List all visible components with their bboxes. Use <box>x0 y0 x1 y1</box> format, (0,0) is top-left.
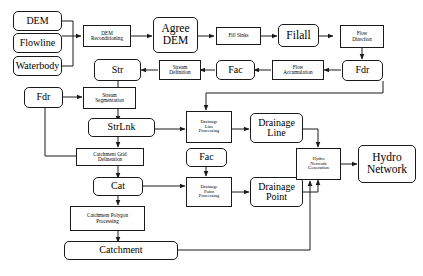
node-cat[interactable]: Cat <box>93 177 143 196</box>
node-str-label: Str <box>96 65 139 75</box>
node-catchment-label: Catchment <box>66 245 176 255</box>
node-waterbody[interactable]: Waterbody <box>13 56 62 76</box>
node-filall[interactable]: Filall <box>278 24 319 47</box>
node-flow-accumulation-label-2: Accumulation <box>274 70 322 75</box>
node-catchment-grid-delineation[interactable]: Catchment Grid Delineation <box>76 148 144 166</box>
node-catchment-polygon-processing[interactable]: Catchment Polygon Processing <box>70 206 145 231</box>
node-stream-definition-label-2: Definition <box>161 70 199 75</box>
node-drainage-line-label-2: Line <box>252 128 301 138</box>
node-dem-label: DEM <box>15 16 60 26</box>
node-drainage-point-processing[interactable]: Drainage Point Processing <box>186 177 232 207</box>
node-flow-accumulation[interactable]: Flow Accumulation <box>272 60 324 80</box>
node-waterbody-label: Waterbody <box>15 61 60 71</box>
node-flow-direction-label-2: Direction <box>342 37 382 42</box>
node-fill-sinks[interactable]: Fill Sinks <box>216 27 261 45</box>
node-flowline[interactable]: Flowline <box>13 33 62 53</box>
node-cat-label: Cat <box>95 181 141 191</box>
node-fac-top[interactable]: Fac <box>216 60 255 80</box>
node-catchment[interactable]: Catchment <box>64 241 178 260</box>
node-drainage-line[interactable]: Drainage Line <box>250 113 303 143</box>
node-drainage-line-processing-label-3: Processing <box>188 129 230 134</box>
flowchart-diagram: DEM Flowline Waterbody DEM Reconditionin… <box>0 0 423 276</box>
node-catchment-polygon-processing-label-2: Processing <box>72 219 143 224</box>
node-drainage-point[interactable]: Drainage Point <box>250 177 303 207</box>
node-fac-mid-label: Fac <box>188 152 225 162</box>
node-stream-definition[interactable]: Stream Definition <box>159 60 201 80</box>
node-agree-dem-label-2: DEM <box>155 35 196 47</box>
node-strlnk[interactable]: StrLnk <box>88 118 155 137</box>
node-fill-sinks-label: Fill Sinks <box>218 33 259 38</box>
node-catchment-grid-delineation-label-2: Delineation <box>78 157 142 162</box>
node-fac-top-label: Fac <box>218 65 253 75</box>
node-fac-mid[interactable]: Fac <box>186 148 227 167</box>
node-agree-dem[interactable]: Agree DEM <box>153 17 198 53</box>
node-flow-direction[interactable]: Flow Direction <box>340 25 384 48</box>
node-fdr-left[interactable]: Fdr <box>24 87 63 108</box>
node-dem[interactable]: DEM <box>13 11 62 31</box>
node-fdr-top[interactable]: Fdr <box>342 60 383 81</box>
node-filall-label: Filall <box>280 30 317 42</box>
node-fdr-left-label: Fdr <box>26 92 61 102</box>
node-drainage-point-label-2: Point <box>252 192 301 202</box>
node-hydro-network-label-2: Network <box>360 164 414 176</box>
node-dem-reconditioning-label-2: Reconditioning <box>85 36 129 41</box>
node-drainage-point-processing-label-3: Processing <box>188 194 230 199</box>
node-drainage-line-processing[interactable]: Drainage Line Processing <box>186 111 232 143</box>
node-dem-reconditioning[interactable]: DEM Reconditioning <box>83 25 131 47</box>
node-strlnk-label: StrLnk <box>90 122 153 132</box>
node-hydro-network-generation[interactable]: Hydro Network Generation <box>296 148 341 180</box>
node-str[interactable]: Str <box>94 59 141 81</box>
node-fdr-top-label: Fdr <box>344 65 381 75</box>
node-stream-segmentation-label-2: Segmentation <box>85 98 134 103</box>
node-hydro-network[interactable]: Hydro Network <box>358 145 416 183</box>
node-stream-segmentation[interactable]: Stream Segmentation <box>83 87 136 109</box>
node-flowline-label: Flowline <box>15 38 60 48</box>
node-hydro-network-generation-label-3: Generation <box>298 166 339 171</box>
